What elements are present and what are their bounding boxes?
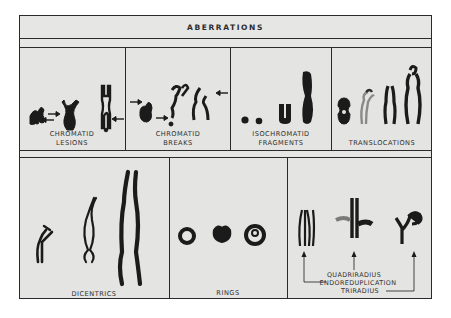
panel-isochromatid-fragments: ISOCHROMATID FRAGMENTS [230, 48, 331, 151]
panel-chromatid-lesions: CHROMATID LESIONS [20, 48, 125, 151]
figure-header: ABERRATIONS [20, 16, 431, 39]
label-translocations: TRANSLOCATIONS [348, 139, 415, 147]
aberrations-figure: ABERRATIONS CHROMATID LESIONS [19, 15, 432, 299]
chromatid-breaks-illustration: CHROMATID BREAKS [126, 48, 230, 151]
panel-dicentrics: DICENTRICS [20, 158, 169, 298]
label-triradius: TRIRADIUS [340, 287, 379, 295]
panel-complex-aberrations: QUADRIRADIUS ENDOREDUPLICATION TRIRADIUS [287, 158, 431, 298]
panel-translocations: TRANSLOCATIONS [331, 48, 431, 151]
label-chromatid-lesions-1: CHROMATID [50, 130, 95, 138]
label-quadriradius: QUADRIRADIUS [327, 271, 381, 279]
label-chromatid-breaks-2: BREAKS [163, 139, 192, 147]
complex-aberrations-illustration: QUADRIRADIUS ENDOREDUPLICATION TRIRADIUS [288, 158, 431, 298]
figure-title: ABERRATIONS [187, 23, 264, 32]
chromatid-lesions-illustration: CHROMATID LESIONS [20, 48, 125, 151]
label-chromatid-breaks-1: CHROMATID [156, 130, 201, 138]
label-isochromatid-fragments-1: ISOCHROMATID [252, 130, 309, 138]
panel-rings: RINGS [169, 158, 287, 298]
label-rings: RINGS [216, 289, 239, 297]
label-chromatid-lesions-2: LESIONS [56, 139, 88, 147]
translocations-illustration: TRANSLOCATIONS [332, 48, 431, 151]
label-endoreduplication: ENDOREDUPLICATION [320, 279, 397, 287]
label-isochromatid-fragments-2: FRAGMENTS [258, 139, 303, 147]
rings-illustration: RINGS [170, 158, 287, 298]
isochromatid-fragments-illustration: ISOCHROMATID FRAGMENTS [231, 48, 331, 151]
label-dicentrics: DICENTRICS [71, 290, 116, 298]
dicentrics-illustration: DICENTRICS [20, 158, 169, 298]
spacer-band-middle [20, 151, 431, 158]
spacer-band-top [20, 39, 431, 48]
panel-chromatid-breaks: CHROMATID BREAKS [125, 48, 230, 151]
